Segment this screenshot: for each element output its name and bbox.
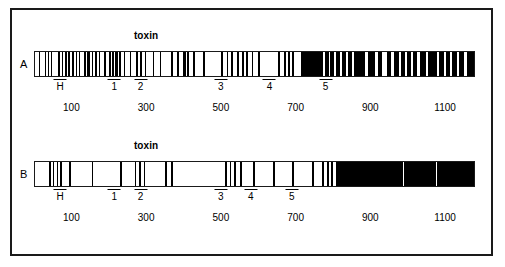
sequence-band bbox=[177, 52, 178, 76]
sequence-band bbox=[230, 162, 231, 186]
sequence-band bbox=[221, 52, 222, 76]
domain-marker-label: H bbox=[54, 81, 67, 92]
scale-tick-label: 300 bbox=[138, 102, 155, 114]
sequence-band bbox=[79, 52, 80, 76]
sequence-band bbox=[124, 52, 126, 76]
sequence-band bbox=[301, 52, 323, 76]
domain-marker-bar bbox=[214, 189, 227, 190]
domain-marker-4: 4 bbox=[244, 189, 257, 202]
sequence-band bbox=[49, 162, 50, 186]
sequence-band bbox=[330, 52, 334, 76]
sequence-band bbox=[119, 52, 120, 76]
sequence-band bbox=[322, 162, 324, 186]
figure-frame: A toxin H12345 1003005007009001100 B tox… bbox=[10, 8, 493, 256]
sequence-band bbox=[203, 52, 204, 76]
sequence-band bbox=[253, 162, 255, 186]
sequence-band bbox=[193, 52, 195, 76]
sequence-band bbox=[187, 52, 188, 76]
sequence-band bbox=[407, 52, 411, 76]
sequence-band bbox=[112, 52, 113, 76]
domain-marker-label: 3 bbox=[214, 191, 227, 202]
domain-marker-bar bbox=[54, 189, 67, 190]
sequence-band bbox=[139, 162, 140, 186]
domain-marker-bar bbox=[108, 79, 121, 80]
domain-marker-5: 5 bbox=[319, 79, 332, 92]
toxin-label-a: toxin bbox=[134, 30, 158, 41]
sequence-band bbox=[420, 52, 426, 76]
sequence-band bbox=[92, 52, 93, 76]
domain-marker-bar bbox=[134, 79, 147, 80]
domain-marker-bar bbox=[108, 189, 121, 190]
sequence-band bbox=[39, 52, 40, 76]
sequence-band bbox=[284, 52, 287, 76]
domain-marker-h: H bbox=[54, 189, 67, 202]
domain-marker-bar bbox=[319, 79, 332, 80]
sequence-band bbox=[278, 52, 280, 76]
sequence-band bbox=[452, 52, 456, 76]
domain-marker-bar bbox=[263, 79, 276, 80]
scale-tick-label: 500 bbox=[213, 102, 230, 114]
domain-marker-3: 3 bbox=[214, 79, 227, 92]
domain-marker-bar bbox=[244, 189, 257, 190]
scale-tick-label: 1100 bbox=[434, 102, 456, 114]
scale-tick-label: 500 bbox=[213, 212, 230, 224]
sequence-band bbox=[336, 162, 474, 186]
sequence-band bbox=[368, 52, 375, 76]
sequence-band bbox=[342, 52, 346, 76]
domain-marker-label: 1 bbox=[108, 81, 121, 92]
sequence-band bbox=[354, 52, 364, 76]
sequence-band bbox=[378, 52, 382, 76]
sequence-band bbox=[401, 52, 405, 76]
sequence-gap bbox=[436, 162, 437, 186]
sequence-band bbox=[84, 52, 85, 76]
panel-b: B toxin H12345 1003005007009001100 bbox=[12, 126, 491, 236]
sequence-band bbox=[99, 52, 100, 76]
domain-marker-2: 2 bbox=[134, 189, 147, 202]
sequence-band bbox=[292, 52, 293, 76]
scale-tick-label: 900 bbox=[362, 212, 379, 224]
sequence-band bbox=[231, 52, 233, 76]
panel-letter-b: B bbox=[20, 168, 28, 180]
sequence-band bbox=[87, 52, 90, 76]
sequence-gap bbox=[403, 162, 404, 186]
domain-marker-4: 4 bbox=[263, 79, 276, 92]
domain-marker-label: H bbox=[54, 191, 67, 202]
sequence-band bbox=[234, 162, 235, 186]
sequence-band bbox=[144, 162, 145, 186]
sequence-band bbox=[183, 52, 186, 76]
sequence-band bbox=[336, 52, 339, 76]
sequence-band bbox=[115, 52, 118, 76]
sequence-band bbox=[459, 52, 464, 76]
sequence-band bbox=[467, 52, 474, 76]
sequence-band bbox=[288, 52, 290, 76]
domain-marker-2: 2 bbox=[134, 79, 147, 92]
scale-tick-label: 300 bbox=[138, 212, 155, 224]
toxin-label-b: toxin bbox=[134, 140, 158, 151]
panel-a: A toxin H12345 1003005007009001100 bbox=[12, 16, 491, 126]
sequence-band bbox=[292, 162, 294, 186]
sequence-band bbox=[95, 52, 97, 76]
sequence-band bbox=[237, 52, 238, 76]
sequence-band bbox=[171, 52, 173, 76]
sequence-band bbox=[109, 52, 111, 76]
sequence-band bbox=[227, 52, 228, 76]
sequence-band bbox=[348, 52, 352, 76]
sequence-band bbox=[240, 162, 241, 186]
domain-marker-h: H bbox=[54, 79, 67, 92]
sequence-band bbox=[60, 162, 61, 186]
domain-marker-bar bbox=[54, 79, 67, 80]
domain-marker-label: 5 bbox=[319, 81, 332, 92]
sequence-band bbox=[140, 52, 141, 76]
sequence-band bbox=[120, 162, 122, 186]
scale-tick-label: 1100 bbox=[434, 212, 456, 224]
sequence-band bbox=[439, 52, 444, 76]
sequence-band bbox=[57, 162, 58, 186]
sequence-band bbox=[413, 52, 417, 76]
sequence-band bbox=[225, 162, 226, 186]
sequence-band bbox=[130, 52, 131, 76]
sequence-band bbox=[246, 52, 247, 76]
sequence-band bbox=[446, 52, 450, 76]
sequence-band bbox=[331, 162, 333, 186]
sequence-band bbox=[325, 52, 329, 76]
sequence-band bbox=[273, 162, 275, 186]
